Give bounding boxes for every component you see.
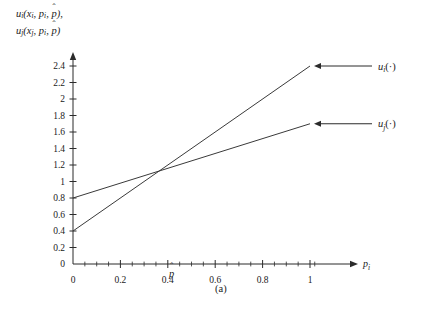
y-tick-label: 0.4 [53, 226, 65, 236]
y-tick-label: 1.2 [53, 160, 65, 170]
series-line-uj [73, 124, 310, 198]
plot-canvas: 00.20.40.60.811.21.41.61.822.22.400.20.4… [0, 0, 428, 312]
phat-marker: ̂p [169, 268, 174, 279]
y-tick-label: 2.4 [53, 61, 65, 71]
y-tick-label: 1.8 [53, 111, 65, 121]
figure-panel: ui(xi, pi, ̂p), uj(xj, pi, ̂p) 00.20.40.… [0, 0, 428, 312]
series-label-uj: uj(·) [378, 118, 396, 132]
y-axis-label: ui(xi, pi, ̂p), uj(xj, pi, ̂p) [16, 6, 63, 40]
annotation-arrow-head-ui-icon [314, 63, 321, 69]
y-tick-label: 2.2 [53, 78, 65, 88]
y-tick-label: 1.6 [53, 127, 65, 137]
y-tick-label: 0.2 [53, 243, 65, 253]
y-tick-label: 1.4 [53, 144, 65, 154]
y-axis-label-line-2: uj(xj, pi, ̂p) [16, 23, 63, 40]
series-line-ui [73, 66, 310, 231]
figure-caption: (a) [215, 283, 227, 294]
y-tick-label: 0.6 [53, 210, 65, 220]
y-tick-label: 0.8 [53, 193, 65, 203]
x-tick-label: 0.8 [257, 275, 269, 285]
y-tick-label: 2 [60, 94, 65, 104]
annotation-arrow-head-uj-icon [314, 121, 321, 127]
x-tick-label: 0.2 [114, 275, 126, 285]
x-tick-label: 0 [71, 275, 76, 285]
x-axis-name-label: pi [362, 258, 370, 272]
x-tick-label: 1 [308, 275, 313, 285]
series-label-ui: ui(·) [378, 61, 396, 75]
y-tick-label: 1 [60, 177, 65, 187]
x-axis-arrow-icon [350, 261, 358, 267]
y-tick-label: 0 [60, 259, 65, 269]
y-axis-label-line-1: ui(xi, pi, ̂p), [16, 6, 63, 23]
y-axis-arrow-icon [70, 52, 76, 60]
